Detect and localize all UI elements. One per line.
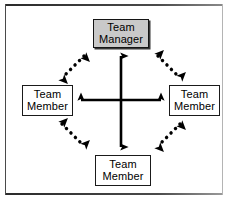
node-team-manager[interactable]: Team Manager [93,19,149,48]
node-label-line1: Team [109,159,136,171]
node-team-member-bottom[interactable]: Team Member [95,155,151,186]
node-team-member-left[interactable]: Team Member [22,85,73,116]
node-label-line1: Team [107,22,134,34]
node-label-line2: Member [27,101,68,113]
connector-diagonal-left-bottom [62,124,84,146]
node-label-line2: Member [174,101,215,113]
node-label-line2: Manager [99,34,143,46]
connector-diagonal-right-bottom [158,124,180,146]
diagram-canvas: Team Manager Team Member Team Member Tea… [0,0,227,202]
node-label-line1: Team [34,89,61,101]
connector-diagonal-manager-left [62,56,84,78]
node-team-member-right[interactable]: Team Member [169,85,220,116]
node-label-line1: Team [181,89,208,101]
connector-diagonal-manager-right [158,56,180,78]
node-label-line2: Member [103,171,144,183]
